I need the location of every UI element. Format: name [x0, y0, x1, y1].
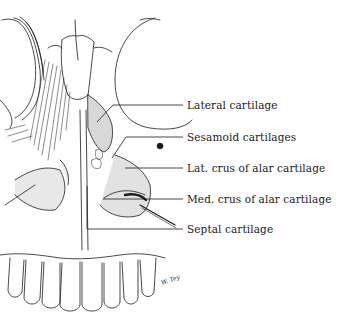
anatomical-illustration: W. Tey: [0, 0, 341, 315]
artist-signature: W. Tey: [160, 273, 182, 287]
right-orbit: [115, 18, 192, 129]
nasal-bones: [48, 20, 112, 100]
label-lat-crus: Lat. crus of alar cartilage: [187, 162, 325, 174]
lateral-cartilage-shape: [88, 95, 113, 152]
left-orbit: [0, 17, 44, 128]
label-med-crus: Med. crus of alar cartilage: [187, 193, 332, 205]
maxilla-hatching: [5, 60, 70, 160]
alar-cartilages: [5, 155, 176, 228]
label-lateral-cartilage: Lateral cartilage: [187, 99, 278, 111]
leader-sesamoid: [112, 137, 183, 158]
label-sesamoid-cartilages: Sesamoid cartilages: [187, 131, 296, 143]
teeth: [0, 254, 165, 311]
label-septal-cartilage: Septal cartilage: [187, 223, 273, 235]
